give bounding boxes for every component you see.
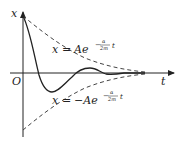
t-axis-label: t bbox=[161, 75, 166, 88]
svg-text:Ae: Ae bbox=[73, 43, 89, 56]
svg-text:t: t bbox=[112, 42, 115, 50]
x-axis-label: x bbox=[11, 7, 18, 20]
svg-text:2m: 2m bbox=[99, 45, 108, 51]
svg-text:α: α bbox=[110, 89, 114, 95]
damped-oscillation-diagram: x O t x = Ae − α 2m t x = −Ae − α 2m t bbox=[0, 0, 182, 146]
svg-text:x: x bbox=[52, 94, 59, 107]
svg-text:x: x bbox=[52, 43, 59, 56]
upper-envelope-equation: x = Ae − α 2m t bbox=[52, 38, 115, 56]
svg-text:=: = bbox=[62, 94, 71, 107]
svg-text:α: α bbox=[102, 38, 106, 44]
svg-text:−Ae: −Ae bbox=[74, 94, 98, 107]
svg-text:2m: 2m bbox=[107, 96, 116, 102]
lower-envelope-equation: x = −Ae − α 2m t bbox=[52, 89, 123, 107]
svg-text:=: = bbox=[62, 43, 71, 56]
origin-label: O bbox=[12, 75, 21, 88]
svg-text:t: t bbox=[120, 93, 123, 101]
